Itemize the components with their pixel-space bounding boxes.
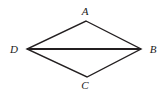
vertex-label-b: B: [150, 44, 157, 55]
vertex-label-c: C: [81, 80, 88, 91]
geometry-figure: A B C D: [0, 0, 164, 94]
vertex-label-a: A: [82, 6, 89, 17]
vertex-label-d: D: [10, 44, 18, 55]
